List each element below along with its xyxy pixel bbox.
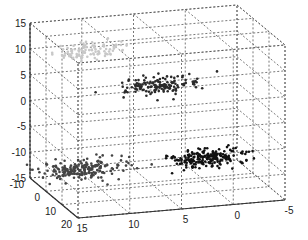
z-tick-label: 15 — [15, 18, 27, 29]
grid-line — [134, 169, 182, 209]
data-point — [62, 48, 65, 51]
data-point — [122, 170, 125, 173]
data-point — [183, 155, 186, 158]
data-point — [51, 53, 54, 56]
data-point — [55, 173, 58, 176]
data-point — [62, 55, 65, 58]
data-point — [171, 172, 174, 175]
data-point — [225, 158, 228, 161]
data-point — [184, 79, 187, 82]
data-point — [134, 84, 137, 87]
data-point — [223, 150, 226, 153]
data-point — [70, 49, 73, 52]
data-point — [93, 53, 96, 56]
data-point — [226, 162, 229, 165]
data-point — [163, 87, 166, 90]
data-point — [83, 169, 86, 172]
data-point — [80, 178, 83, 181]
data-point — [88, 172, 91, 175]
data-point — [219, 163, 222, 166]
data-point — [171, 90, 174, 93]
data-point — [100, 162, 103, 165]
data-point — [136, 167, 139, 170]
data-point — [164, 78, 167, 81]
z-tick-label: -10 — [12, 147, 27, 158]
data-point — [45, 163, 48, 166]
data-point — [192, 166, 195, 169]
data-point — [149, 81, 152, 84]
data-point — [101, 179, 104, 182]
data-point — [120, 44, 123, 47]
data-point — [73, 176, 76, 179]
data-point — [91, 173, 94, 176]
x-tick-label: -5 — [285, 205, 294, 216]
data-point — [107, 37, 110, 40]
grid-line — [237, 5, 285, 45]
data-point — [187, 150, 190, 153]
data-point — [61, 169, 64, 172]
tick-labels: 151050-5-10-15-1001020151050-5 — [10, 18, 294, 234]
data-point — [84, 49, 87, 52]
data-point — [145, 90, 148, 93]
data-point — [156, 79, 159, 82]
data-point — [81, 166, 84, 169]
data-point — [75, 53, 78, 56]
data-point — [85, 161, 88, 164]
data-point — [97, 176, 100, 179]
data-point — [72, 172, 75, 175]
data-point — [70, 169, 73, 172]
data-point — [72, 57, 75, 60]
data-point — [148, 91, 151, 94]
data-point — [153, 76, 156, 79]
data-point — [97, 160, 100, 163]
data-point — [194, 166, 197, 169]
data-point — [201, 87, 204, 90]
data-point — [94, 57, 97, 60]
data-point — [201, 157, 204, 160]
x-tick-label: 15 — [76, 223, 88, 234]
data-point — [194, 80, 197, 83]
data-point — [188, 73, 191, 76]
grid-line — [237, 57, 285, 97]
x-tick-label: 0 — [234, 210, 240, 221]
data-point — [103, 50, 106, 53]
data-point — [90, 169, 93, 172]
data-point — [172, 98, 175, 101]
y-tick-label: -10 — [10, 179, 25, 190]
data-point — [160, 84, 163, 87]
data-point — [171, 81, 174, 84]
data-point — [159, 81, 162, 84]
data-point — [206, 154, 209, 157]
data-point — [183, 83, 186, 86]
data-point — [195, 86, 198, 89]
data-point — [85, 164, 88, 167]
data-point — [191, 151, 194, 154]
data-point — [120, 159, 123, 162]
data-point — [104, 52, 107, 55]
data-point — [68, 171, 71, 174]
data-point — [198, 167, 201, 170]
data-point — [206, 157, 209, 160]
data-point — [211, 165, 214, 168]
data-point — [76, 172, 79, 175]
data-point — [231, 167, 234, 170]
data-point — [213, 161, 216, 164]
grid-line — [30, 101, 78, 141]
data-point — [229, 149, 232, 152]
data-point — [221, 158, 224, 161]
data-point — [91, 49, 94, 52]
data-point — [248, 151, 251, 154]
data-point — [116, 167, 119, 170]
data-point — [115, 44, 118, 47]
data-point — [216, 165, 219, 168]
y-tick-label: 0 — [34, 192, 40, 203]
data-point — [78, 176, 81, 179]
data-point — [54, 158, 57, 161]
data-point — [192, 83, 195, 86]
x-axis — [78, 200, 285, 218]
data-point — [120, 40, 123, 43]
data-point — [219, 153, 222, 156]
data-point — [245, 159, 248, 162]
data-point — [234, 147, 237, 150]
data-point — [211, 157, 214, 160]
